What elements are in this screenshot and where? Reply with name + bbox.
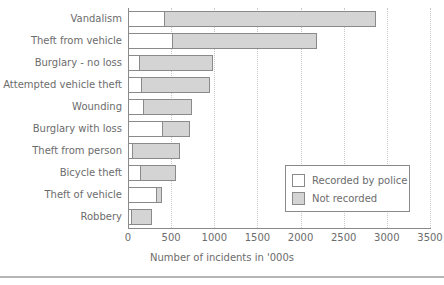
bar-segment-recorded	[128, 121, 163, 137]
bar-segment-recorded	[128, 11, 165, 27]
legend-label-not-recorded: Not recorded	[312, 193, 377, 204]
stacked-bar	[128, 55, 213, 71]
y-axis-label: Theft from person	[0, 140, 122, 162]
y-axis-label: Wounding	[0, 96, 122, 118]
legend-item-not-recorded: Not recorded	[292, 189, 409, 207]
stacked-bar	[128, 33, 317, 49]
stacked-bar	[128, 187, 162, 203]
bar-row	[128, 8, 430, 30]
bar-row	[128, 118, 430, 140]
stacked-bar	[128, 99, 192, 115]
stacked-bar	[128, 121, 190, 137]
x-axis-tick-0: 0	[125, 232, 131, 243]
y-axis-label: Burglary with loss	[0, 118, 122, 140]
x-axis-line	[128, 228, 431, 229]
y-axis-label: Theft from vehicle	[0, 30, 122, 52]
x-axis-tick-500: 500	[162, 232, 181, 243]
bar-segment-not-recorded	[131, 209, 152, 225]
legend-item-recorded-by-police: Recorded by police	[292, 171, 409, 189]
bar-row	[128, 52, 430, 74]
stacked-bar	[128, 165, 176, 181]
bar-segment-not-recorded	[143, 99, 191, 115]
stacked-bar	[128, 143, 180, 159]
x-axis-tick-3500: 3500	[417, 232, 442, 243]
bar-segment-recorded	[128, 187, 157, 203]
bar-row	[128, 30, 430, 52]
y-axis-label: Burglary - no loss	[0, 52, 122, 74]
footer-divider	[0, 276, 444, 278]
bar-row	[128, 140, 430, 162]
bar-segment-not-recorded	[162, 121, 190, 137]
x-axis-title: Number of incidents in '000s	[0, 252, 444, 263]
legend-swatch-recorded-by-police	[292, 174, 305, 187]
bar-segment-not-recorded	[140, 165, 176, 181]
bar-row	[128, 96, 430, 118]
bar-segment-not-recorded	[156, 187, 162, 203]
x-axis-tick-1000: 1000	[202, 232, 227, 243]
bar-segment-not-recorded	[164, 11, 376, 27]
stacked-bar	[128, 77, 210, 93]
y-axis-label: Robbery	[0, 206, 122, 228]
bar-segment-not-recorded	[141, 77, 210, 93]
legend-swatch-not-recorded	[292, 192, 305, 205]
bar-segment-recorded	[128, 77, 142, 93]
bar-segment-not-recorded	[132, 143, 180, 159]
bar-segment-not-recorded	[172, 33, 317, 49]
legend-label-recorded-by-police: Recorded by police	[312, 175, 407, 186]
bar-segment-recorded	[128, 33, 173, 49]
y-axis-label: Theft of vehicle	[0, 184, 122, 206]
gridline-3500	[430, 8, 431, 228]
bar-segment-recorded	[128, 99, 144, 115]
y-axis-label: Vandalism	[0, 8, 122, 30]
stacked-bar	[128, 11, 376, 27]
y-axis-label: Attempted vehicle theft	[0, 74, 122, 96]
x-axis-tick-3000: 3000	[374, 232, 399, 243]
x-axis-tick-2000: 2000	[288, 232, 313, 243]
stacked-bar	[128, 209, 152, 225]
x-axis-tick-1500: 1500	[245, 232, 270, 243]
bar-segment-not-recorded	[139, 55, 213, 71]
stacked-bar-chart: VandalismTheft from vehicleBurglary - no…	[0, 0, 444, 285]
chart-legend: Recorded by police Not recorded	[285, 165, 410, 212]
x-axis-tick-2500: 2500	[331, 232, 356, 243]
bar-row	[128, 74, 430, 96]
y-axis-label: Bicycle theft	[0, 162, 122, 184]
